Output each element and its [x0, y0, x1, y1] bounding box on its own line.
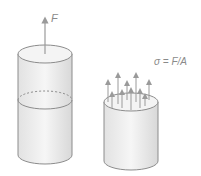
right-cylinder: [104, 75, 158, 170]
force-label: F: [51, 12, 58, 24]
left-cylinder: [18, 20, 72, 164]
stress-formula: σ = F/A: [154, 56, 187, 67]
stress-diagram: [0, 0, 201, 176]
